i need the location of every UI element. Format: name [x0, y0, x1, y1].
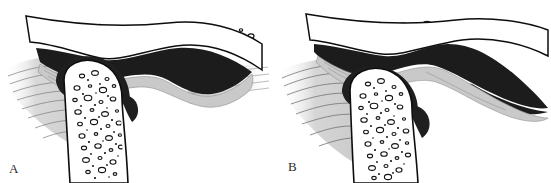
panel-b-label: B — [288, 160, 297, 173]
panel-a-label: A — [9, 162, 19, 175]
tmj-figure: A — [0, 0, 551, 183]
mandibular-condyle-a — [64, 60, 128, 183]
panel-b: B — [276, 0, 551, 183]
panel-a: A — [0, 0, 276, 183]
